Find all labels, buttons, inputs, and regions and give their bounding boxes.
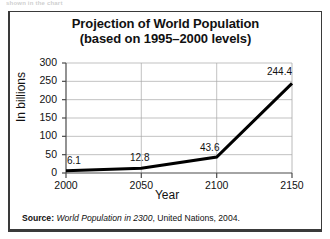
data-label-2100: 43.6 (200, 142, 219, 153)
y-tick-label-0: 0 (27, 166, 57, 178)
chart-figure-box: Projection of World Population (based on… (8, 11, 322, 232)
plot-area: In billions Year 300 250 200 150 100 50 … (10, 12, 324, 233)
y-tick-label-300: 300 (27, 56, 57, 68)
y-tick-label-100: 100 (27, 129, 57, 141)
data-label-2150: 244.4 (267, 66, 292, 77)
source-title: World Population in 2300 (56, 213, 152, 223)
x-tick-label-2100: 2100 (197, 179, 237, 191)
gridlines-horizontal (66, 63, 292, 155)
data-label-2000: 6.1 (67, 155, 81, 166)
data-label-2050: 12.8 (130, 152, 149, 163)
x-tick-label-2050: 2050 (121, 179, 161, 191)
source-note: Source: World Population in 2300, United… (22, 213, 240, 223)
source-rest: , United Nations, 2004. (152, 213, 239, 223)
y-tick-label-150: 150 (27, 111, 57, 123)
y-axis-title: In billions (14, 62, 28, 132)
x-tick-label-2150: 2150 (272, 179, 312, 191)
cropped-caption-remnant: shown in the chart (6, 0, 126, 7)
source-label: Source: (22, 213, 54, 223)
y-tick-label-200: 200 (27, 93, 57, 105)
data-series-line (66, 83, 292, 170)
y-tick-label-50: 50 (27, 148, 57, 160)
x-axis-ticks (66, 173, 292, 178)
x-tick-label-2000: 2000 (46, 179, 86, 191)
y-tick-label-250: 250 (27, 74, 57, 86)
figure-root: shown in the chart Projection of World P… (0, 0, 330, 239)
